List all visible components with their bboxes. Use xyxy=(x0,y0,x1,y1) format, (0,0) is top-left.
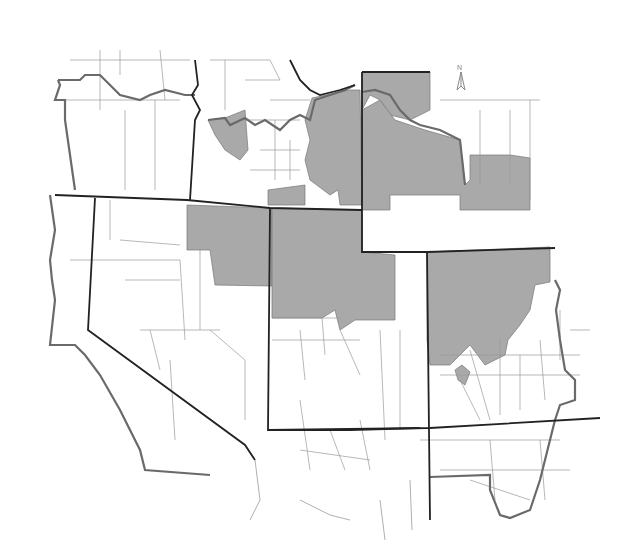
rivers-extensions xyxy=(250,460,412,540)
map-canvas xyxy=(0,0,635,548)
north-arrow-icon xyxy=(455,70,467,94)
